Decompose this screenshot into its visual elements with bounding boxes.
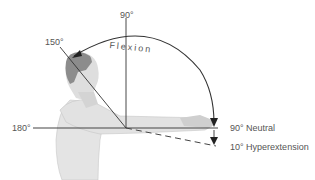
label-neutral: 90° Neutral (230, 124, 275, 133)
shoulder-rom-diagram: 90° 150° Flexion 180° 90° Neutral 10° Hy… (0, 0, 315, 180)
diagram-graphics (0, 0, 315, 180)
label-180: 180° (12, 124, 31, 133)
label-hyperextension: 10° Hyperextension (230, 143, 309, 152)
arrowhead-hyperextension-icon (210, 137, 218, 145)
label-150: 150° (45, 38, 64, 47)
label-90-top: 90° (120, 11, 134, 20)
